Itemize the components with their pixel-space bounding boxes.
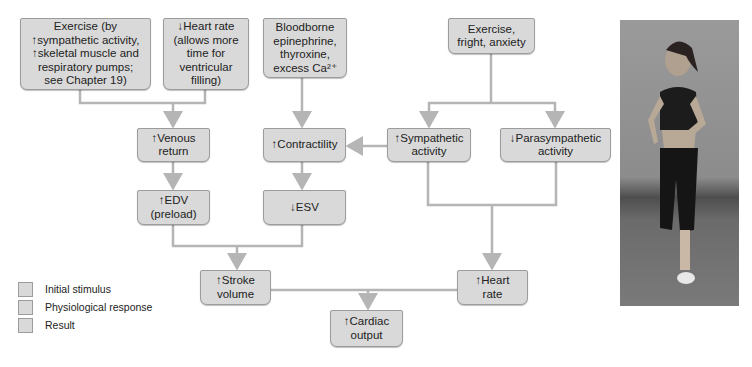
box-sympathetic: ↑Sympathetic activity <box>387 128 471 162</box>
box-venous-return-label: ↑Venous return <box>151 132 195 159</box>
box-decreased-heart-rate-label: ↓Heart rate (allows more time for ventri… <box>173 20 238 88</box>
box-edv: ↑EDV (preload) <box>137 190 210 225</box>
box-exercise-pumps: Exercise (by ↑sympathetic activity, ↑ske… <box>20 18 151 90</box>
box-venous-return: ↑Venous return <box>137 128 210 162</box>
box-parasympathetic-label: ↓Parasympathetic activity <box>510 132 601 159</box>
legend-result: Result <box>18 316 152 334</box>
runner-silhouette-icon <box>620 20 739 306</box>
box-decreased-heart-rate: ↓Heart rate (allows more time for ventri… <box>163 18 249 90</box>
box-exercise-fright: Exercise, fright, anxiety <box>448 18 535 54</box>
legend: Initial stimulus Physiological response … <box>18 280 152 334</box>
box-exercise-pumps-label: Exercise (by ↑sympathetic activity, ↑ske… <box>32 20 140 88</box>
box-stroke-volume: ↑Stroke volume <box>200 270 271 305</box>
box-contractility: ↑Contractility <box>263 128 346 162</box>
box-exercise-fright-label: Exercise, fright, anxiety <box>457 23 525 50</box>
box-sympathetic-label: ↑Sympathetic activity <box>394 132 463 159</box>
box-esv: ↓ESV <box>263 190 346 225</box>
box-heart-rate: ↑Heart rate <box>457 270 528 305</box>
box-stroke-volume-label: ↑Stroke volume <box>216 274 255 301</box>
legend-physiological-response: Physiological response <box>18 298 152 316</box>
box-esv-label: ↓ESV <box>290 201 319 215</box>
box-bloodborne: Bloodborne epinephrine, thyroxine, exces… <box>263 18 347 78</box>
legend-swatch <box>18 300 33 315</box>
legend-label: Physiological response <box>45 301 152 313</box>
legend-label: Initial stimulus <box>45 283 111 295</box>
legend-initial-stimulus: Initial stimulus <box>18 280 152 298</box>
legend-label: Result <box>45 319 75 331</box>
legend-swatch <box>18 318 33 333</box>
box-parasympathetic: ↓Parasympathetic activity <box>500 128 611 162</box>
box-contractility-label: ↑Contractility <box>272 138 338 152</box>
jogger-photo <box>620 20 739 306</box>
box-edv-label: ↑EDV (preload) <box>150 194 196 221</box>
box-cardiac-output: ↑Cardiac output <box>330 310 403 347</box>
box-cardiac-output-label: ↑Cardiac output <box>344 315 389 342</box>
legend-swatch <box>18 282 33 297</box>
box-bloodborne-label: Bloodborne epinephrine, thyroxine, exces… <box>273 21 337 75</box>
box-heart-rate-label: ↑Heart rate <box>476 274 510 301</box>
